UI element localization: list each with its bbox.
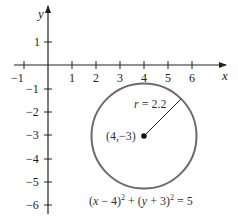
x-tick-label: 3 <box>117 71 123 85</box>
x-tick-label: −1 <box>11 71 24 85</box>
x-axis-label: x <box>221 68 228 83</box>
y-tick-label: 1 <box>34 35 40 49</box>
circle-equation: (x − 4)2 + (y + 3)2 = 5 <box>89 193 193 208</box>
x-tick-label: 5 <box>165 71 171 85</box>
coordinate-plane: −1 1 2 3 4 5 6 1 −1 −2 −3 −4 −5 −6 x y r… <box>0 0 238 219</box>
y-tick-label: −1 <box>26 82 39 96</box>
x-tick-label: 6 <box>189 71 195 85</box>
y-tick-label: −3 <box>26 128 39 142</box>
y-tick-label: −2 <box>26 105 39 119</box>
circle-graph-figure: −1 1 2 3 4 5 6 1 −1 −2 −3 −4 −5 −6 x y r… <box>0 0 238 219</box>
y-tick-label: −4 <box>26 152 39 166</box>
y-axis-label: y <box>36 6 44 21</box>
radius-label: r = 2.2 <box>134 97 166 111</box>
x-tick-label: 1 <box>69 71 75 85</box>
x-tick-label: 2 <box>93 71 99 85</box>
center-label: (4,−3) <box>106 129 136 143</box>
y-tick-label: −5 <box>26 175 39 189</box>
center-point <box>141 133 147 139</box>
y-tick-label: −6 <box>26 198 39 212</box>
